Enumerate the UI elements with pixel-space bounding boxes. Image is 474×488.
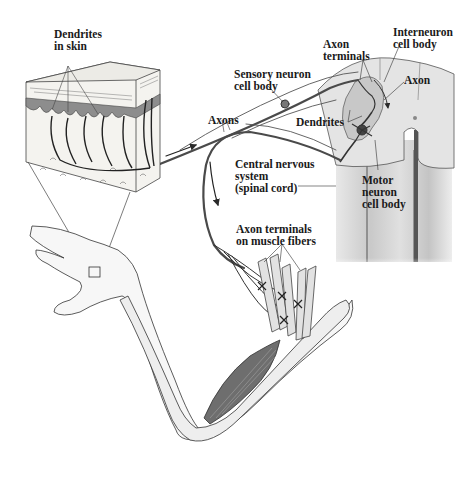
label-axons: Axons — [208, 114, 239, 126]
label-axon: Axon — [404, 74, 430, 86]
label-axon-terminals-top: Axon terminals — [323, 38, 370, 62]
label-line: Axon — [404, 74, 430, 86]
label-line: Axon terminals — [236, 223, 316, 235]
label-line: Dendrites — [296, 116, 344, 128]
label-line: cell body — [362, 198, 406, 210]
label-line: (spinal cord) — [235, 182, 315, 194]
label-sensory-neuron-cell-body: Sensory neuron cell body — [234, 68, 311, 92]
label-line: Axon — [323, 38, 370, 50]
spinal-cord — [318, 58, 460, 270]
label-line: cell body — [393, 38, 453, 50]
label-line: Sensory neuron — [234, 68, 311, 80]
label-dendrites-in-skin: Dendrites in skin — [54, 28, 102, 52]
label-line: Dendrites — [54, 28, 102, 40]
label-interneuron-cell-body: Interneuron cell body — [393, 26, 453, 50]
label-line: Axons — [208, 114, 239, 126]
label-line: Interneuron — [393, 26, 453, 38]
label-axon-terminals-on-muscle: Axon terminals on muscle fibers — [236, 223, 316, 247]
label-line: on muscle fibers — [236, 235, 316, 247]
label-central-nervous-system: Central nervous system (spinal cord) — [235, 158, 315, 194]
label-line: cell body — [234, 80, 311, 92]
label-line: in skin — [54, 40, 102, 52]
label-line: system — [235, 170, 315, 182]
label-motor-neuron-cell-body: Motor neuron cell body — [362, 174, 406, 210]
label-line: terminals — [323, 50, 370, 62]
label-line: Motor — [362, 174, 406, 186]
label-line: neuron — [362, 186, 406, 198]
label-dendrites: Dendrites — [296, 116, 344, 128]
label-line: Central nervous — [235, 158, 315, 170]
reflex-arc-diagram: Dendrites in skin Sensory neuron cell bo… — [0, 0, 474, 488]
